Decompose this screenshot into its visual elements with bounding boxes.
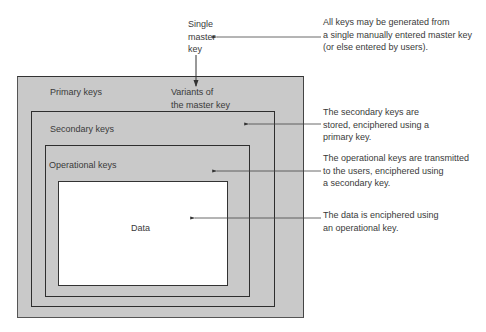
arrow-master-to-variants bbox=[194, 55, 199, 87]
arrows-layer bbox=[0, 0, 486, 332]
